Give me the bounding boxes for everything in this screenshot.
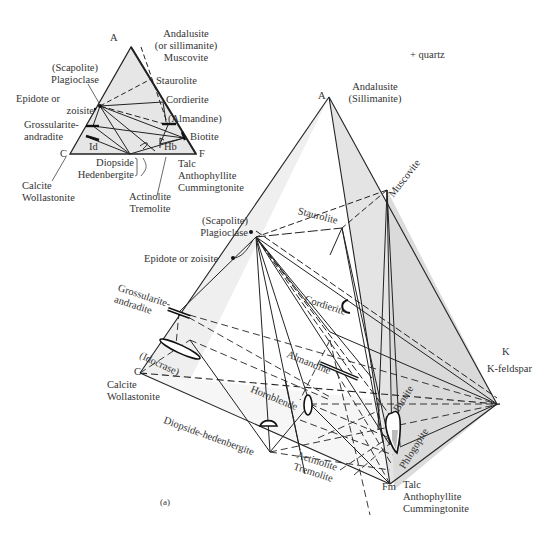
- acf-epidote-label: Epidote or zoisite: [16, 93, 94, 117]
- acf-cordierite-label: Cordierite: [166, 94, 209, 106]
- tet-plagioclase-label: (Scapolite) Plagioclase: [170, 215, 248, 239]
- acf-f-minerals: Talc Anthophyllite Cummingtonite: [178, 158, 244, 194]
- acf-plagioclase-label: (Scapolite) Plagioclase: [40, 62, 110, 86]
- quartz-note: + quartz: [410, 49, 445, 61]
- tet-fm-minerals: Talc Anthophyllite Cummingtonite: [403, 479, 469, 515]
- acf-vertex-a: A: [110, 32, 118, 44]
- diopside-mark: [260, 421, 277, 426]
- hornblende-ellipse: [304, 395, 312, 415]
- tet-epidote-label: Epidote or zoisite: [144, 253, 218, 265]
- acf-grossularite-label: Grossularite- andradite: [24, 119, 79, 143]
- panel-label: (a): [160, 496, 170, 508]
- tet-vertex-fm: Fm: [382, 481, 396, 493]
- tet-c-minerals: Calcite Wollastonite: [107, 379, 160, 403]
- acf-idocrase-label: Id: [89, 141, 98, 153]
- tet-k-minerals: K-feldspar: [487, 363, 532, 375]
- acf-a-minerals: Andalusite (or sillimanite) Muscovite: [146, 28, 226, 64]
- acf-diopside-label: Diopside Hedenbergite: [60, 157, 134, 181]
- tet-vertex-c: C: [134, 366, 141, 378]
- acf-staurolite-label: Staurolite: [156, 75, 197, 87]
- acf-almandine-label: (Almandine): [168, 113, 222, 125]
- tet-vertex-k: K: [502, 346, 510, 358]
- tet-vertex-a: A: [318, 90, 326, 102]
- acf-hornblende-label: Hb: [164, 141, 177, 153]
- acf-actinolite-label: Actinolite Tremolite: [118, 191, 182, 215]
- acf-c-minerals: Calcite Wollastonite: [22, 180, 75, 204]
- tet-a-minerals: Andalusite (Sillimanite): [335, 81, 415, 105]
- acf-biotite-label: Biotite: [190, 131, 219, 143]
